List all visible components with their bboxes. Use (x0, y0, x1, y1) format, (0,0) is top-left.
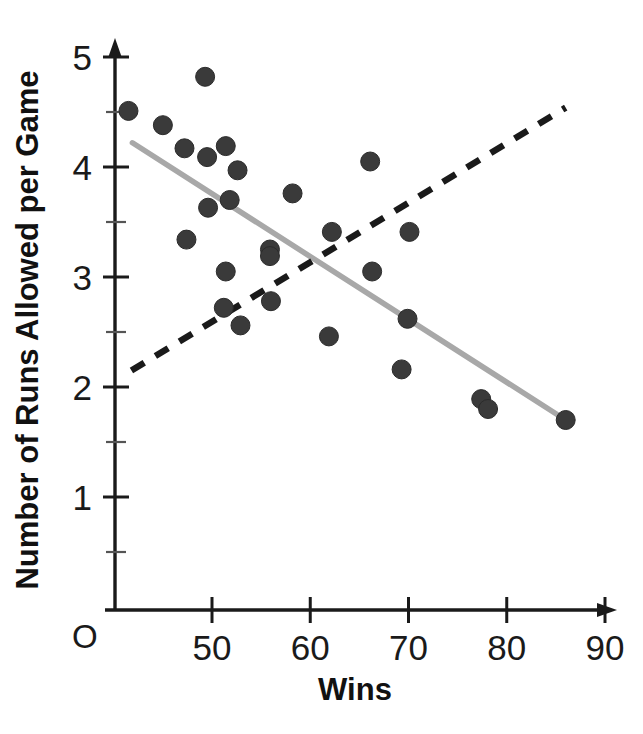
scatter-point (392, 360, 411, 379)
scatter-point (479, 400, 498, 419)
plot-canvas: 12345 5060708090 O Wins Number of Runs A… (0, 0, 643, 734)
scatter-point (322, 222, 341, 241)
scatter-point (361, 152, 380, 171)
scatter-plot-figure: 12345 5060708090 O Wins Number of Runs A… (0, 0, 643, 734)
scatter-point (283, 184, 302, 203)
x-tick-label: 50 (193, 628, 232, 667)
scatter-point (199, 198, 218, 217)
scatter-point (556, 411, 575, 430)
scatter-point (198, 148, 217, 167)
scatter-point (400, 222, 419, 241)
scatter-point (398, 309, 417, 328)
scatter-point (153, 116, 172, 135)
scatter-point (216, 262, 235, 281)
scatter-point (220, 191, 239, 210)
x-tick-label: 80 (487, 628, 526, 667)
scatter-point (319, 327, 338, 346)
scatter-point (196, 67, 215, 86)
scatter-point (228, 161, 247, 180)
scatter-point (177, 230, 196, 249)
scatter-point (119, 101, 138, 120)
x-tick-label: 70 (389, 628, 428, 667)
y-tick-label: 3 (73, 258, 92, 297)
y-tick-label: 5 (73, 38, 92, 77)
y-tick-label: 1 (73, 478, 92, 517)
origin-label: O (72, 618, 98, 655)
scatter-point (175, 139, 194, 158)
x-tick-label: 60 (291, 628, 330, 667)
scatter-point (216, 137, 235, 156)
x-tick-label: 90 (586, 628, 625, 667)
scatter-point (363, 262, 382, 281)
y-axis-title: Number of Runs Allowed per Game (10, 70, 45, 589)
x-axis-title: Wins (318, 672, 392, 707)
scatter-point (261, 292, 280, 311)
y-tick-label: 4 (73, 148, 92, 187)
scatter-point (260, 247, 279, 266)
scatter-point (214, 298, 233, 317)
scatter-point (231, 316, 250, 335)
y-tick-label: 2 (73, 368, 92, 407)
